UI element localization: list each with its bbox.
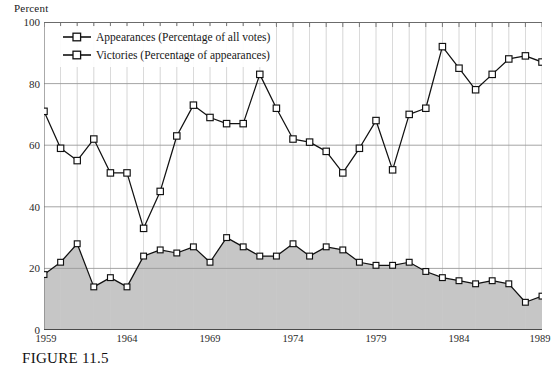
plot-area: [44, 22, 542, 330]
x-axis-tick-labels: 1959196419691974197919841989: [44, 333, 542, 349]
y-tick-label: 100: [6, 16, 40, 28]
legend-item-appearances: Appearances (Percentage of all votes): [62, 28, 270, 46]
x-tick-label: 1989: [529, 333, 550, 344]
y-tick-label: 40: [6, 201, 40, 213]
x-tick-label: 1959: [36, 333, 57, 344]
y-axis-tick-labels: 020406080100: [0, 22, 40, 330]
legend-label-victories: Victories (Percentage of appearances): [92, 49, 270, 61]
y-tick-label: 20: [6, 262, 40, 274]
figure-root: Percent 020406080100 1959196419691974197…: [0, 0, 557, 376]
y-tick-label: 80: [6, 78, 40, 90]
legend-label-appearances: Appearances (Percentage of all votes): [92, 31, 270, 43]
legend-marker-icon: [62, 31, 92, 43]
x-tick-label: 1974: [283, 333, 304, 344]
x-tick-label: 1969: [200, 333, 221, 344]
x-tick-label: 1964: [117, 333, 138, 344]
y-tick-label: 60: [6, 139, 40, 151]
source-note-illegible: [300, 362, 550, 367]
legend-marker-icon: [62, 49, 92, 61]
x-tick-label: 1984: [449, 333, 470, 344]
legend-item-victories: Victories (Percentage of appearances): [62, 46, 270, 64]
y-axis-title: Percent: [14, 2, 48, 14]
figure-caption: FIGURE 11.5: [22, 350, 109, 367]
chart-canvas: [44, 22, 542, 330]
chart-legend: Appearances (Percentage of all votes) Vi…: [58, 26, 276, 67]
x-tick-label: 1979: [366, 333, 387, 344]
